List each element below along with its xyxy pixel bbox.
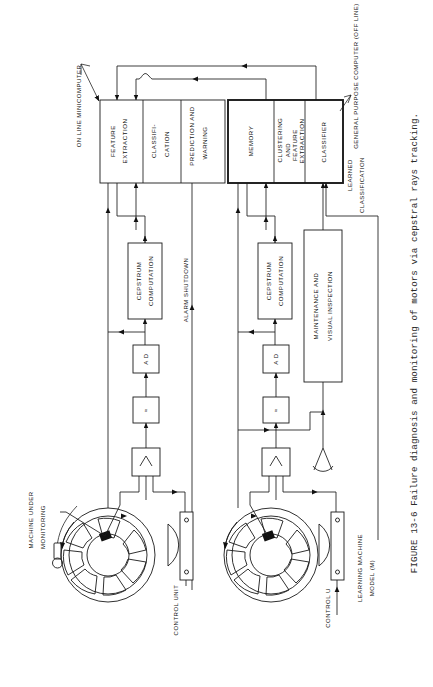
control-unit-left: CONTROL UNIT xyxy=(168,512,193,635)
filter-symbol: ≈ xyxy=(272,408,279,412)
motor-outer-circle xyxy=(61,508,155,602)
eye-lid xyxy=(313,466,333,471)
motor-rotor-circle xyxy=(250,534,292,576)
block-label: FEATURE xyxy=(291,129,298,161)
probe-leader xyxy=(58,506,78,543)
motor-left xyxy=(60,505,155,602)
control-unit-label: CONTROL UNIT xyxy=(173,585,179,636)
maintenance-label: VISUAL INSPECTION xyxy=(326,271,333,341)
annotation-label: MODEL (M) xyxy=(369,560,375,596)
motor-slot xyxy=(71,569,97,594)
figure-caption: FIGURE 13-6 Failure diagnosis and monito… xyxy=(409,113,420,573)
maintenance-label: MAINTENANCE AND xyxy=(312,273,319,340)
annotation-label: GENERAL PURPOSE COMPUTER (OFF LINE) xyxy=(353,3,359,149)
feedback-path-outer xyxy=(117,66,316,100)
control-unit-right: CONTROL U xyxy=(319,512,344,628)
block-label: EXTRACTION xyxy=(121,119,128,164)
motor-arc-arrow xyxy=(223,542,228,549)
annotation-alarm-shutdown: ALARM SHUTDOWN xyxy=(183,258,189,323)
alarm-shutdown-arrow xyxy=(190,304,195,310)
annotation-label: MONITORING xyxy=(40,505,46,549)
cepstrum-label: COMPUTATION xyxy=(147,256,154,306)
annotation-label: LEARNED xyxy=(347,159,353,191)
probe-body xyxy=(54,543,61,559)
right-bus-arrow-2 xyxy=(264,216,269,222)
cepstrum-box-left xyxy=(128,243,162,319)
feedback-arrow-mid-inner xyxy=(192,77,198,82)
annotation-learning-machine: LEARNING MACHINE MODEL (M) xyxy=(357,534,375,602)
cepstrum-label: COMPUTATION xyxy=(277,256,284,306)
right-branch-arrow xyxy=(248,330,254,335)
motor-slot xyxy=(234,569,260,594)
motor-slot xyxy=(284,559,309,583)
motor-stator-circle xyxy=(232,516,310,594)
block-label: AND xyxy=(284,143,291,158)
block-label: MEMORY xyxy=(247,126,254,157)
motor-rotor-circle xyxy=(87,534,129,576)
block-label: CLASSIFI- xyxy=(150,124,157,158)
annotation-label: CLASSIFICATION xyxy=(359,157,365,213)
amplifier-box-left xyxy=(132,448,160,476)
annotation-online-minicomputer: ON LINE MINICOMPUTER xyxy=(76,64,99,147)
motor-stator-circle xyxy=(69,516,147,594)
block-label: FEATURE xyxy=(109,125,116,157)
motor-slot xyxy=(226,550,247,575)
left-bus-arrow-2 xyxy=(134,216,139,222)
block-label: EXTRACTION xyxy=(298,119,305,164)
control-unit-body xyxy=(168,524,179,566)
probe-tip xyxy=(53,558,63,568)
block-label: CLUSTERING xyxy=(276,118,283,163)
annotation-learned-classification: LEARNED CLASSIFICATION xyxy=(347,157,365,213)
cepstrum-label: CEPSTRUM xyxy=(135,262,142,301)
motor-slot xyxy=(103,575,126,595)
control-unit-label: CONTROL U xyxy=(325,588,331,628)
motor-outer-circle xyxy=(224,508,318,602)
amplifier-box-right xyxy=(262,448,290,476)
left-bus-arrow xyxy=(106,207,111,213)
ad-converter-label: A D xyxy=(142,353,149,365)
block-memory: MEMORY xyxy=(247,126,254,157)
figure-canvas: FEATURE EXTRACTION CLASSIFI- CATION PRED… xyxy=(0,0,433,687)
annotation-label: ON LINE MINICOMPUTER xyxy=(76,64,82,147)
block-label: CATION xyxy=(163,131,170,157)
feedback-arrow-to-classification xyxy=(136,79,139,100)
control-unit-arrow xyxy=(335,586,340,592)
maintenance-feed-arrow xyxy=(264,428,270,433)
control-unit-body xyxy=(319,524,330,566)
feedback-arrow-mid-outer xyxy=(241,64,247,69)
motor-slot xyxy=(121,559,146,583)
amp-left-branch xyxy=(120,476,139,505)
line-hop xyxy=(139,74,152,79)
feedback-path-inner xyxy=(152,79,266,100)
eye-inspection-icon xyxy=(313,448,333,471)
left-branch-arrow xyxy=(118,330,124,335)
amp-right-branch-r xyxy=(283,476,336,492)
motor-feed-arrow xyxy=(251,514,257,519)
block-label: PREDICTION AND xyxy=(188,106,195,166)
block-label: WARNING xyxy=(201,126,208,159)
motor-right xyxy=(223,505,318,602)
motor-slot xyxy=(63,550,84,575)
motor-slot xyxy=(123,530,146,554)
cepstrum-box-right xyxy=(258,243,292,319)
block-label: CLASSIFIER xyxy=(320,121,327,162)
cepstrum-out-right xyxy=(247,183,275,243)
eye-cone xyxy=(314,448,332,470)
right-bus-arrow xyxy=(236,207,241,213)
motor-slot xyxy=(286,530,309,554)
amp-left-branch-r xyxy=(250,476,269,505)
cepstrum-label: CEPSTRUM xyxy=(265,262,272,301)
annotation-label: MACHINE UNDER xyxy=(28,491,34,548)
amp-right-branch xyxy=(153,476,185,492)
diagram-svg: FEATURE EXTRACTION CLASSIFI- CATION PRED… xyxy=(0,0,433,687)
sensor-marker xyxy=(262,530,275,541)
maintenance-box xyxy=(304,230,342,382)
motor-slot xyxy=(266,575,289,595)
sensor-probe-left: MACHINE UNDER MONITORING xyxy=(28,491,77,568)
filter-symbol: ≈ xyxy=(142,408,149,412)
ad-converter-label: A D xyxy=(272,353,279,365)
amp-right-arrow-r xyxy=(312,490,318,495)
amp-right-arrow xyxy=(172,490,178,495)
cepstrum-out-left xyxy=(117,183,145,243)
block-classifier: CLASSIFIER xyxy=(320,121,327,162)
